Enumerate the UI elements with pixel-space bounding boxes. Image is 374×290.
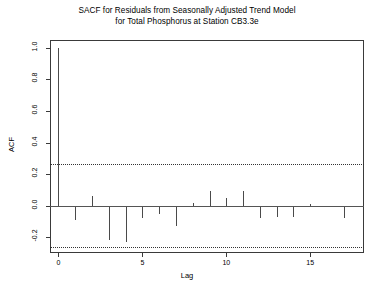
y-tick-label: 0.4	[31, 130, 38, 152]
x-tick-label: 10	[214, 259, 238, 266]
acf-spike-lag-7	[176, 206, 177, 227]
plot-area	[50, 40, 364, 253]
zero-reference-line	[50, 206, 364, 207]
chart-title-line-1: SACF for Residuals from Seasonally Adjus…	[0, 6, 374, 17]
y-tick-label: 0.2	[31, 162, 38, 184]
y-tick-label: 1.0	[31, 35, 38, 57]
confidence-band-lower	[50, 247, 364, 249]
y-tick-label: 0.6	[31, 99, 38, 121]
chart-title-line-2: for Total Phosphorus at Station CB3.3e	[0, 17, 374, 28]
acf-spike-lag-14	[293, 206, 294, 217]
y-axis-label: ACF	[7, 133, 16, 157]
y-tick-label: 0.8	[31, 67, 38, 89]
acf-spike-lag-12	[260, 206, 261, 219]
acf-spike-lag-10	[226, 198, 227, 206]
acf-spike-lag-3	[109, 206, 110, 241]
acf-spike-lag-17	[344, 206, 345, 219]
acf-chart-figure: SACF for Residuals from Seasonally Adjus…	[0, 0, 374, 290]
x-tick-mark	[58, 253, 59, 257]
x-tick-mark	[142, 253, 143, 257]
acf-spike-lag-11	[243, 191, 244, 205]
acf-spike-lag-4	[126, 206, 127, 242]
acf-spike-lag-2	[92, 196, 93, 205]
x-tick-label: 0	[46, 259, 70, 266]
acf-spike-lag-13	[277, 206, 278, 217]
x-tick-mark	[310, 253, 311, 257]
x-axis-label: Lag	[0, 271, 374, 280]
chart-title: SACF for Residuals from Seasonally Adjus…	[0, 6, 374, 27]
confidence-band-upper	[50, 164, 364, 166]
acf-spike-lag-0	[58, 48, 59, 206]
y-tick-label: 0.0	[31, 193, 38, 215]
y-tick-label: -0.2	[31, 225, 38, 247]
acf-spike-lag-5	[142, 206, 143, 219]
x-tick-mark	[226, 253, 227, 257]
acf-spike-lag-9	[210, 191, 211, 205]
x-tick-label: 15	[298, 259, 322, 266]
acf-spike-lag-1	[75, 206, 76, 220]
x-tick-label: 5	[130, 259, 154, 266]
acf-spike-lag-6	[159, 206, 160, 214]
